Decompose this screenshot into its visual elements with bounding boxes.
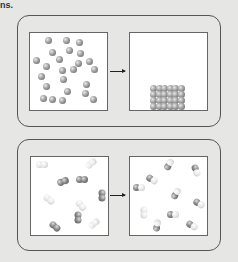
right-arrow-icon	[110, 195, 125, 196]
gas-particle	[76, 39, 83, 46]
gas-particle	[59, 97, 66, 104]
diatomic-molecule	[167, 211, 179, 218]
diatomic-molecule	[74, 199, 87, 213]
diatomic-molecule	[99, 190, 106, 202]
gas-particle	[77, 50, 84, 57]
diatomic-molecule	[56, 176, 70, 187]
gas-particle	[83, 81, 90, 88]
product-molecules-box	[129, 156, 208, 236]
diatomic-molecule	[84, 157, 98, 170]
gas-particle	[82, 90, 89, 97]
diatomic-molecule	[170, 187, 182, 201]
gas-particle	[75, 60, 82, 67]
reactant-molecules-box	[30, 156, 109, 236]
cropped-text-fragment: ns.	[0, 0, 13, 10]
diatomic-molecule	[145, 173, 159, 185]
gas-particle	[70, 66, 77, 73]
gas-particle	[59, 67, 66, 74]
lattice-particle	[178, 103, 185, 110]
diatomic-molecule	[192, 197, 206, 209]
gas-particle	[43, 83, 50, 90]
gas-particle	[38, 73, 45, 80]
gas-particle	[60, 76, 67, 83]
diatomic-molecule	[76, 176, 88, 183]
diatomic-molecule	[42, 193, 56, 206]
gas-particle	[64, 88, 71, 95]
diatomic-molecule	[185, 219, 199, 231]
gas-particle	[40, 95, 47, 102]
diatomic-molecule	[153, 219, 162, 232]
diatomic-molecule	[133, 184, 145, 191]
diatomic-molecule	[87, 217, 101, 230]
gas-particle	[66, 47, 73, 54]
gas-particles-box	[29, 32, 108, 111]
gas-particle	[90, 96, 97, 103]
gas-particle	[49, 49, 56, 56]
solid-lattice-box	[129, 32, 208, 111]
gas-particle	[56, 56, 63, 63]
diatomic-molecule	[163, 158, 175, 172]
gas-particle	[91, 66, 98, 73]
gas-particle	[43, 63, 50, 70]
diatomic-molecule	[75, 212, 82, 224]
gas-particle	[63, 37, 70, 44]
gas-particle	[45, 37, 52, 44]
diatomic-molecule	[48, 220, 62, 233]
right-arrow-icon	[110, 71, 125, 72]
diatomic-molecule	[141, 207, 148, 219]
gas-particle	[49, 96, 56, 103]
gas-particle	[33, 57, 40, 64]
diatomic-molecule	[191, 164, 202, 178]
gas-particle	[86, 58, 93, 65]
diatomic-molecule	[36, 161, 48, 168]
